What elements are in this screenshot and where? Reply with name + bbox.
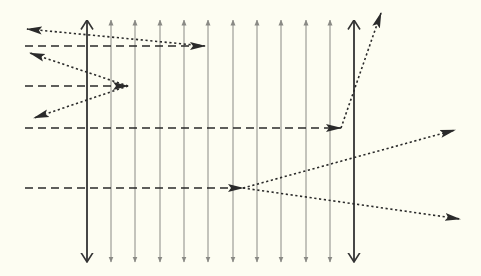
outgoing-ray-6-arrow [243, 188, 460, 219]
ray-diagram [0, 0, 481, 276]
outgoing-ray-3-arrow [34, 86, 128, 118]
outgoing-ray-5-arrow [243, 130, 455, 188]
diagram-canvas [0, 0, 481, 276]
outgoing-ray-2-arrow [30, 53, 128, 86]
outgoing-ray-4-arrow [341, 13, 381, 128]
thin-grid-lines [111, 20, 330, 262]
thick-lens-lines [87, 20, 354, 262]
outgoing-ray-1-arrow [27, 29, 205, 46]
